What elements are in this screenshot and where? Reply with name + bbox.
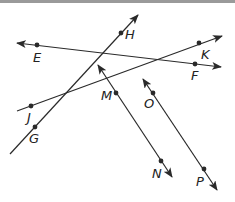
- point-n-dot: [159, 159, 164, 164]
- point-k-dot: [197, 41, 202, 46]
- point-label-e: E: [33, 50, 42, 65]
- point-p-dot: [202, 167, 207, 172]
- point-label-o: O: [144, 96, 154, 111]
- point-label-m: M: [101, 88, 112, 103]
- point-label-h: H: [125, 27, 135, 42]
- point-f-dot: [193, 62, 198, 67]
- point-e-dot: [35, 43, 40, 48]
- point-m-dot: [114, 91, 119, 96]
- point-g-dot: [33, 125, 38, 130]
- point-h-dot: [119, 31, 124, 36]
- point-o-dot: [151, 91, 156, 96]
- line-ef: [17, 43, 221, 67]
- point-label-n: N: [152, 166, 162, 181]
- point-label-k: K: [201, 47, 211, 62]
- point-label-p: P: [196, 174, 204, 189]
- point-label-g: G: [29, 131, 39, 146]
- point-j-dot: [29, 104, 34, 109]
- point-label-f: F: [191, 68, 199, 83]
- point-label-j: J: [24, 110, 31, 125]
- lines-layer: [10, 15, 222, 190]
- geometry-diagram: EFHGJKMNOP: [0, 0, 235, 202]
